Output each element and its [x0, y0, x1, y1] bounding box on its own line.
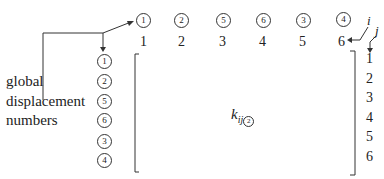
- label-line-global: global: [6, 73, 44, 89]
- index-i-label: i: [367, 13, 371, 29]
- column-global-number: 1: [136, 13, 151, 28]
- column-global-number: 5: [216, 13, 231, 28]
- row-local-number: 6: [366, 150, 373, 164]
- index-j-label: j: [375, 23, 379, 39]
- row-global-number: 6: [97, 113, 112, 128]
- row-global-number: 2: [97, 74, 112, 89]
- row-global-number: 1: [97, 54, 112, 69]
- label-line-displacement: displacement: [6, 93, 85, 109]
- column-global-number: 6: [256, 13, 271, 28]
- row-local-number: 3: [366, 91, 373, 105]
- column-local-number: 2: [178, 35, 185, 49]
- row-local-number: 4: [366, 111, 373, 125]
- row-local-number: 1: [366, 52, 373, 66]
- column-global-number: 2: [174, 13, 189, 28]
- column-global-number: 3: [296, 13, 311, 28]
- column-local-number: 5: [299, 35, 306, 49]
- column-local-number: 4: [259, 35, 266, 49]
- label-line-numbers: numbers: [6, 112, 58, 128]
- matrix-base-symbol: k: [231, 106, 238, 122]
- column-local-number: 6: [338, 35, 345, 49]
- row-global-number: 5: [97, 94, 112, 109]
- connector-lines: [0, 0, 384, 179]
- row-global-number: 4: [97, 153, 112, 168]
- stiffness-matrix-symbol: kij2: [231, 106, 254, 123]
- row-local-number: 5: [366, 130, 373, 144]
- column-global-number: 4: [336, 12, 351, 27]
- row-local-number: 2: [366, 72, 373, 86]
- row-global-number: 3: [97, 134, 112, 149]
- column-local-number: 1: [140, 35, 147, 49]
- column-local-number: 3: [219, 35, 226, 49]
